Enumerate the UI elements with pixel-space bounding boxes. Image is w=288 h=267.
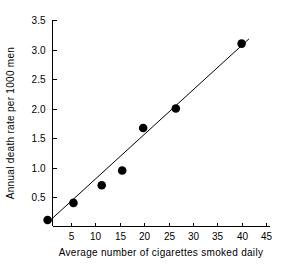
scatter-plot: 0.51.01.52.02.53.03.5 51015202530354045 … [0, 0, 288, 267]
data-points [43, 39, 246, 224]
axes-lines [53, 20, 271, 227]
x-axis-ticks [72, 223, 267, 227]
data-point-0 [43, 216, 52, 225]
y-tick-label-2: 1.5 [32, 133, 46, 144]
y-tick-label-5: 3.0 [32, 45, 46, 56]
y-tick-label-6: 3.5 [32, 15, 46, 26]
trendline-segment [47, 39, 249, 224]
x-tick-label-8: 45 [261, 231, 273, 242]
y-axis-title: Annual death rate per 1000 men [5, 47, 16, 199]
x-tick-label-5: 30 [188, 231, 200, 242]
data-point-5 [172, 104, 181, 113]
data-point-2 [97, 181, 106, 190]
data-point-1 [69, 199, 78, 208]
trendline [47, 39, 249, 224]
data-point-3 [118, 166, 127, 175]
x-tick-label-6: 35 [212, 231, 224, 242]
y-tick-label-3: 2.0 [32, 104, 46, 115]
x-tick-label-3: 20 [139, 231, 151, 242]
x-tick-label-4: 25 [164, 231, 176, 242]
data-point-4 [139, 124, 148, 133]
chart-figure: 0.51.01.52.02.53.03.5 51015202530354045 … [0, 0, 288, 267]
y-axis-tick-labels: 0.51.01.52.02.53.03.5 [32, 15, 46, 203]
x-tick-label-7: 40 [237, 231, 249, 242]
y-tick-label-1: 1.0 [32, 163, 46, 174]
x-tick-label-2: 15 [115, 231, 127, 242]
data-point-6 [237, 39, 246, 48]
x-tick-label-1: 10 [90, 231, 102, 242]
x-axis-tick-labels: 51015202530354045 [69, 231, 273, 242]
y-tick-label-0: 0.5 [32, 192, 46, 203]
y-axis-ticks [53, 21, 57, 198]
x-axis-title: Average number of cigarettes smoked dail… [59, 247, 263, 258]
y-tick-label-4: 2.5 [32, 74, 46, 85]
x-tick-label-0: 5 [69, 231, 75, 242]
